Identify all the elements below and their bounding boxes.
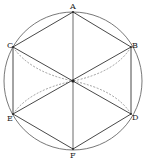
label-E: E: [7, 114, 13, 123]
label-C: C: [7, 41, 13, 50]
side-AC: [13, 12, 73, 47]
side-AB: [73, 12, 131, 47]
label-B: B: [132, 41, 138, 50]
label-D: D: [132, 113, 138, 122]
vertex-dot-A: [72, 11, 74, 13]
hexagon-diagram: A B C D E F: [0, 0, 147, 162]
center-point: [71, 79, 74, 82]
label-F: F: [70, 151, 76, 160]
side-EF: [13, 114, 73, 149]
vertex-dot-F: [72, 148, 74, 150]
label-A: A: [69, 2, 76, 11]
